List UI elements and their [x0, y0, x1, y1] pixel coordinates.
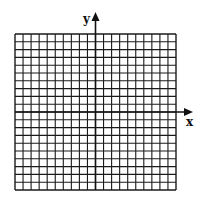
- y-axis-label: y: [82, 12, 91, 26]
- y-axis-arrow-icon: [92, 12, 100, 21]
- coordinate-grid-diagram: x y: [0, 0, 205, 199]
- x-axis-label: x: [186, 115, 194, 129]
